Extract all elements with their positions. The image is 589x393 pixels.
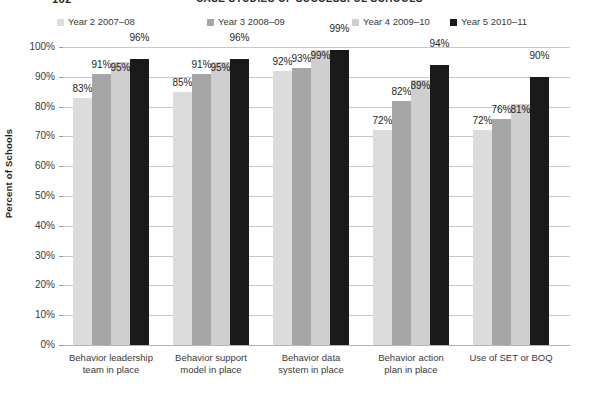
y-axis-tick-label: 70% [17, 131, 55, 141]
legend-item-1[interactable]: Year 2 2007–08 [57, 15, 135, 29]
bar[interactable] [373, 130, 392, 345]
bar[interactable] [130, 59, 149, 345]
category-label-line: Behavior support [156, 352, 266, 364]
category-label-line: Use of SET or BOQ [456, 352, 566, 364]
page-number: 162 [52, 0, 72, 5]
x-axis-category-label: Behavior datasystem in place [256, 352, 366, 375]
chart-legend: Year 2 2007–08Year 3 2008–09Year 4 2009–… [0, 15, 589, 29]
legend-item-4[interactable]: Year 5 2010–11 [450, 15, 527, 29]
bar[interactable] [392, 101, 411, 345]
bar[interactable] [111, 62, 130, 345]
category-label-line: Behavior action [356, 352, 466, 364]
bar-value-label: 96% [124, 33, 155, 43]
category-label-line: system in place [256, 364, 366, 376]
bar[interactable] [530, 77, 549, 345]
bar[interactable] [173, 92, 192, 345]
bar[interactable] [73, 98, 92, 345]
legend-label: Year 4 2009–10 [363, 17, 430, 27]
legend-label: Year 3 2008–09 [218, 17, 285, 27]
x-axis-category-label: Behavior actionplan in place [356, 352, 466, 375]
bar-group: 85%91%95%96% [173, 47, 249, 345]
y-axis-tick-label: 100% [17, 42, 55, 52]
legend-item-3[interactable]: Year 4 2009–10 [352, 15, 430, 29]
x-axis-category-label: Behavior leadershipteam in place [56, 352, 166, 375]
bar[interactable] [273, 71, 292, 345]
plot-area: 83%91%95%96%85%91%95%96%92%93%99%99%72%8… [63, 47, 570, 345]
bar[interactable] [430, 65, 449, 345]
bar-value-label: 94% [424, 39, 455, 49]
bar-group: 72%76%81%90% [473, 47, 549, 345]
category-label-line: model in place [156, 364, 266, 376]
legend-swatch-icon [57, 19, 64, 26]
bar[interactable] [230, 59, 249, 345]
legend-swatch-icon [450, 19, 457, 26]
bar[interactable] [511, 104, 530, 345]
running-header-title: CASE STUDIES OF SUCCESSFUL SCHOOLS [196, 0, 423, 4]
bar[interactable] [473, 130, 492, 345]
y-axis-tick-label: 0% [17, 340, 55, 350]
bar[interactable] [492, 119, 511, 345]
legend-label: Year 2 2007–08 [68, 17, 135, 27]
bar[interactable] [92, 74, 111, 345]
y-axis-tick-label: 20% [17, 280, 55, 290]
legend-item-2[interactable]: Year 3 2008–09 [207, 15, 285, 29]
bar[interactable] [192, 74, 211, 345]
x-axis-category-label: Use of SET or BOQ [456, 352, 566, 364]
bar-value-label: 90% [524, 51, 555, 61]
y-axis-tick-label: 30% [17, 251, 55, 261]
y-axis-title: Percent of Schools [3, 44, 14, 304]
y-axis-tick-label: 60% [17, 161, 55, 171]
chart-page: 162 CASE STUDIES OF SUCCESSFUL SCHOOLS Y… [0, 0, 589, 393]
y-axis-tick-label: 10% [17, 310, 55, 320]
y-axis-tick-label: 50% [17, 191, 55, 201]
bar[interactable] [330, 50, 349, 345]
y-axis-tick-label: 40% [17, 221, 55, 231]
legend-label: Year 5 2010–11 [461, 17, 527, 27]
category-label-line: team in place [56, 364, 166, 376]
bar[interactable] [311, 50, 330, 345]
bar[interactable] [411, 80, 430, 345]
bar[interactable] [292, 68, 311, 345]
bar-group: 92%93%99%99% [273, 47, 349, 345]
legend-swatch-icon [207, 19, 214, 26]
bar-value-label: 96% [224, 33, 255, 43]
bar[interactable] [211, 62, 230, 345]
bar-group: 83%91%95%96% [73, 47, 149, 345]
category-label-line: plan in place [356, 364, 466, 376]
x-axis-line [63, 345, 570, 346]
bar-group: 72%82%89%94% [373, 47, 449, 345]
bar-value-label: 99% [324, 24, 355, 34]
category-label-line: Behavior leadership [56, 352, 166, 364]
y-axis-tick-label: 90% [17, 72, 55, 82]
page-header: 162 CASE STUDIES OF SUCCESSFUL SCHOOLS [0, 0, 589, 9]
x-axis-category-label: Behavior supportmodel in place [156, 352, 266, 375]
y-axis-tick-label: 80% [17, 102, 55, 112]
category-label-line: Behavior data [256, 352, 366, 364]
